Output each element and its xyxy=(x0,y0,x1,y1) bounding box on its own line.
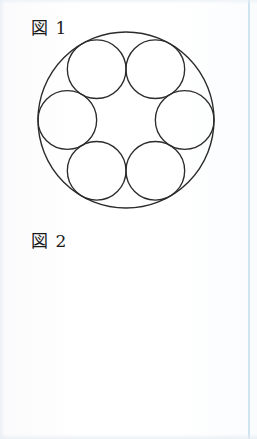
page-canvas: 図 1 図 2 xyxy=(0,0,257,439)
figure-2-drawing xyxy=(0,222,240,439)
right-margin-rule xyxy=(248,0,250,439)
figure-1-block: 図 1 xyxy=(0,0,240,225)
packing-circle-level-1-3 xyxy=(38,91,97,150)
packing-circle-level-1-0 xyxy=(155,91,214,150)
packing-circle-level-1-2 xyxy=(67,141,126,200)
packing-circle-level-1-1 xyxy=(126,141,185,200)
outer-boundary-circle xyxy=(38,32,214,208)
figure-2-block: 図 2 xyxy=(0,222,240,439)
packing-circle-level-1-5 xyxy=(126,40,185,99)
figure-1-drawing xyxy=(0,0,240,225)
packing-circle-level-1-4 xyxy=(67,40,126,99)
